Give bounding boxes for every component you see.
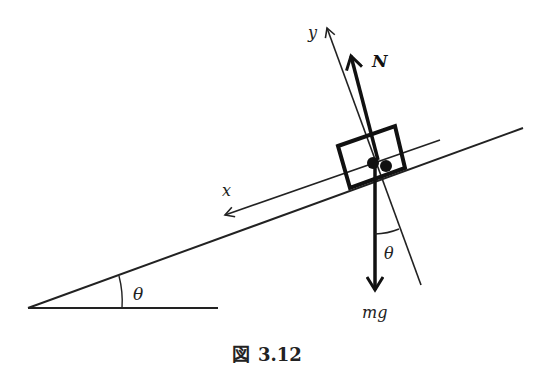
normal-force-arrow xyxy=(351,56,378,160)
weight-angle-label: θ xyxy=(384,244,394,263)
x-axis-label: x xyxy=(222,181,231,200)
incline-angle-label: θ xyxy=(133,284,143,304)
figure-caption-number: 3.12 xyxy=(258,344,302,365)
x-axis-arrow xyxy=(225,140,440,215)
incline-angle-arc xyxy=(119,276,122,308)
figure-caption-prefix: 図 xyxy=(232,344,250,365)
inclined-plane-diagram: θ x y N mg θ 図 3.12 xyxy=(0,0,544,374)
incline-surface xyxy=(28,128,523,308)
y-axis-label: y xyxy=(307,23,318,42)
normal-force-label: N xyxy=(371,51,389,71)
center-dot-2 xyxy=(380,160,392,172)
weight-label: mg xyxy=(362,303,387,322)
weight-angle-arc xyxy=(375,229,399,234)
